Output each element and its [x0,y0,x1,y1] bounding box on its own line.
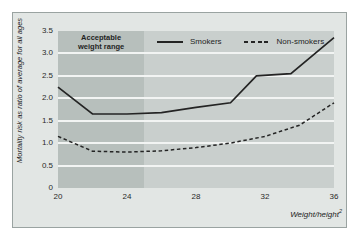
solid-line-swatch-icon [157,41,183,43]
gridline [58,75,334,77]
y-tick-label: 1.0 [35,139,53,147]
x-tick-label: 36 [324,193,344,201]
x-tick-label: 32 [255,193,275,201]
y-tick-label: 2.0 [35,94,53,102]
y-tick-label: 2.5 [35,72,53,80]
y-tick-label: 3.5 [35,27,53,35]
x-tick-label: 24 [117,193,137,201]
gridline [58,52,334,54]
legend-label: Smokers [190,38,222,46]
gridline [58,120,334,122]
x-tick-label: 28 [186,193,206,201]
acceptable-band-label: Acceptableweight range [58,34,144,51]
dashed-line-swatch-icon [244,41,270,43]
gridline [58,97,334,99]
y-tick-label: 1.5 [35,117,53,125]
x-axis-title: Weight/height2 [290,208,342,219]
y-tick-label: 3.0 [35,49,53,57]
y-tick-label: 0 [35,184,53,192]
legend-label: Non-smokers [277,38,325,46]
legend-item-smokers: Smokers [157,38,222,46]
acceptable-band-label-line: weight range [58,43,144,52]
gridline [58,142,334,144]
y-axis-title: Mortality risk as ratio of average for a… [15,13,24,163]
chart-figure: Acceptableweight range SmokersNon-smoker… [0,0,358,243]
legend-item-non-smokers: Non-smokers [244,38,325,46]
legend: SmokersNon-smokers [157,38,324,46]
x-tick-label: 20 [48,193,68,201]
x-axis-title-text: Weight/height [290,210,339,219]
x-axis-title-exponent: 2 [339,208,342,214]
y-tick-label: 0.5 [35,162,53,170]
gridline [58,165,334,167]
